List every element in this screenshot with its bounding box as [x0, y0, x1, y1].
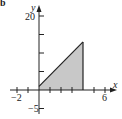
area-plot: b y x 20 −5 −2 6	[0, 0, 122, 119]
x-axis-label: x	[112, 79, 118, 90]
x-tick-label-6: 6	[102, 92, 107, 103]
y-ticks	[39, 16, 44, 109]
x-tick-label-neg2: −2	[11, 92, 22, 103]
y-tick-label-20: 20	[25, 11, 35, 22]
y-axis-arrow-icon	[37, 5, 42, 12]
panel-label: b	[0, 0, 6, 8]
y-tick-label-neg5: −5	[28, 103, 39, 114]
